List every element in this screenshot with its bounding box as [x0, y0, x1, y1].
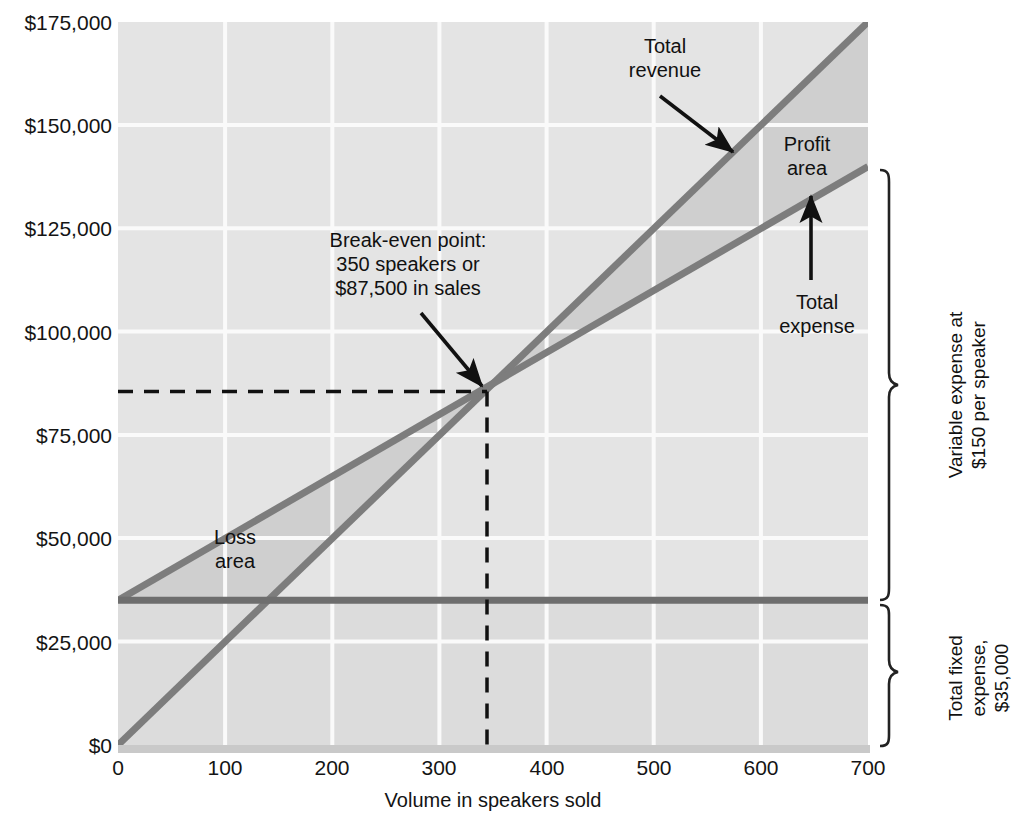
loss-area-label: Loss area	[180, 525, 290, 573]
x-axis-title: Volume in speakers sold	[118, 789, 868, 812]
fixed-expense-band	[118, 600, 868, 745]
x-tick-300: 300	[409, 757, 469, 778]
break-even-annotation: Break-even point: 350 speakers or $87,50…	[288, 228, 528, 300]
total-expense-label: Total expense	[752, 290, 882, 338]
variable-expense-bracket-label: Variable expense at $150 per speaker	[944, 180, 990, 610]
x-tick-100: 100	[195, 757, 255, 778]
profit-area-label: Profit area	[752, 132, 862, 180]
x-tick-700: 700	[838, 757, 898, 778]
x-tick-400: 400	[517, 757, 577, 778]
x-tick-600: 600	[731, 757, 791, 778]
x-axis-baseline	[118, 745, 870, 753]
total-revenue-label: Total revenue	[590, 34, 740, 82]
variable-expense-bracket	[880, 170, 898, 600]
x-tick-500: 500	[624, 757, 684, 778]
fixed-expense-bracket-label: Total fixed expense, $35,000	[944, 608, 1013, 748]
fixed-expense-bracket	[880, 605, 898, 746]
x-tick-0: 0	[88, 757, 148, 778]
x-tick-200: 200	[302, 757, 362, 778]
